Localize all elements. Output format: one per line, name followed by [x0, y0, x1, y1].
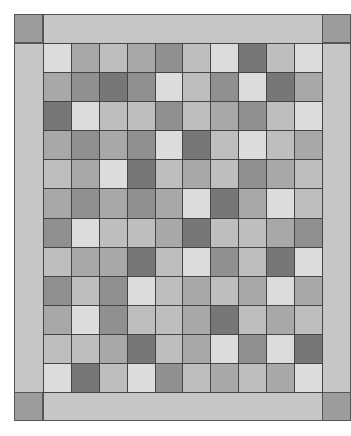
patch-cell	[267, 277, 294, 305]
border-left	[14, 43, 44, 393]
patch-cell	[128, 189, 155, 217]
patch-cell	[156, 189, 183, 217]
patch-cell	[211, 131, 238, 159]
patch-cell	[295, 73, 322, 101]
patch-cell	[72, 219, 99, 247]
patch-cell	[44, 219, 71, 247]
patch-grid	[43, 43, 323, 393]
patch-cell	[156, 44, 183, 72]
patch-cell	[211, 44, 238, 72]
patch-cell	[44, 364, 71, 392]
patch-cell	[295, 335, 322, 363]
patch-cell	[183, 364, 210, 392]
patch-cell	[156, 306, 183, 334]
patch-cell	[295, 102, 322, 130]
border-right	[322, 43, 351, 393]
patch-cell	[100, 306, 127, 334]
patch-cell	[128, 102, 155, 130]
patch-cell	[156, 277, 183, 305]
patch-cell	[295, 189, 322, 217]
patch-cell	[100, 102, 127, 130]
patch-cell	[128, 248, 155, 276]
corner-top-left	[14, 14, 43, 43]
patch-cell	[267, 189, 294, 217]
patch-cell	[267, 219, 294, 247]
patch-cell	[295, 160, 322, 188]
patch-cell	[183, 102, 210, 130]
patch-cell	[156, 364, 183, 392]
corner-top-right	[322, 14, 351, 43]
patch-cell	[100, 73, 127, 101]
patch-cell	[211, 335, 238, 363]
patch-cell	[183, 277, 210, 305]
border-top	[43, 14, 324, 44]
patch-cell	[156, 160, 183, 188]
patch-cell	[183, 131, 210, 159]
patch-cell	[100, 219, 127, 247]
patch-cell	[100, 44, 127, 72]
patch-cell	[128, 73, 155, 101]
patch-cell	[295, 277, 322, 305]
patch-cell	[239, 131, 266, 159]
patch-cell	[100, 248, 127, 276]
patch-cell	[295, 131, 322, 159]
patch-cell	[295, 248, 322, 276]
patch-cell	[239, 248, 266, 276]
quilt	[14, 14, 351, 421]
patch-cell	[44, 335, 71, 363]
patch-cell	[44, 44, 71, 72]
patch-cell	[239, 189, 266, 217]
patch-cell	[128, 44, 155, 72]
patch-cell	[100, 277, 127, 305]
border-bottom	[43, 392, 324, 421]
patch-cell	[128, 277, 155, 305]
patch-cell	[211, 364, 238, 392]
patch-cell	[156, 131, 183, 159]
patch-cell	[44, 131, 71, 159]
patch-cell	[156, 248, 183, 276]
patch-cell	[183, 160, 210, 188]
patch-cell	[72, 44, 99, 72]
patch-cell	[183, 44, 210, 72]
patch-cell	[211, 189, 238, 217]
patch-cell	[100, 335, 127, 363]
patch-cell	[183, 335, 210, 363]
patch-cell	[100, 160, 127, 188]
patch-cell	[239, 364, 266, 392]
patch-cell	[267, 335, 294, 363]
patch-cell	[128, 131, 155, 159]
patch-cell	[44, 306, 71, 334]
patch-cell	[211, 277, 238, 305]
patch-cell	[211, 73, 238, 101]
patch-cell	[267, 73, 294, 101]
patch-cell	[72, 248, 99, 276]
patch-cell	[239, 306, 266, 334]
patch-cell	[295, 364, 322, 392]
patch-cell	[72, 364, 99, 392]
patch-cell	[211, 219, 238, 247]
patch-cell	[156, 73, 183, 101]
patch-cell	[267, 160, 294, 188]
patch-cell	[267, 102, 294, 130]
patch-cell	[211, 248, 238, 276]
patch-cell	[239, 160, 266, 188]
patch-cell	[44, 102, 71, 130]
patch-cell	[128, 306, 155, 334]
patch-cell	[100, 364, 127, 392]
patch-cell	[44, 277, 71, 305]
patch-cell	[239, 73, 266, 101]
patch-cell	[72, 131, 99, 159]
patch-cell	[211, 102, 238, 130]
patch-cell	[44, 248, 71, 276]
patch-cell	[100, 131, 127, 159]
patch-cell	[44, 73, 71, 101]
patch-cell	[239, 277, 266, 305]
patch-cell	[72, 277, 99, 305]
patch-cell	[295, 44, 322, 72]
patch-cell	[128, 160, 155, 188]
patch-cell	[239, 102, 266, 130]
patch-cell	[44, 189, 71, 217]
patch-cell	[156, 219, 183, 247]
patch-cell	[128, 219, 155, 247]
corner-bottom-right	[322, 392, 351, 421]
